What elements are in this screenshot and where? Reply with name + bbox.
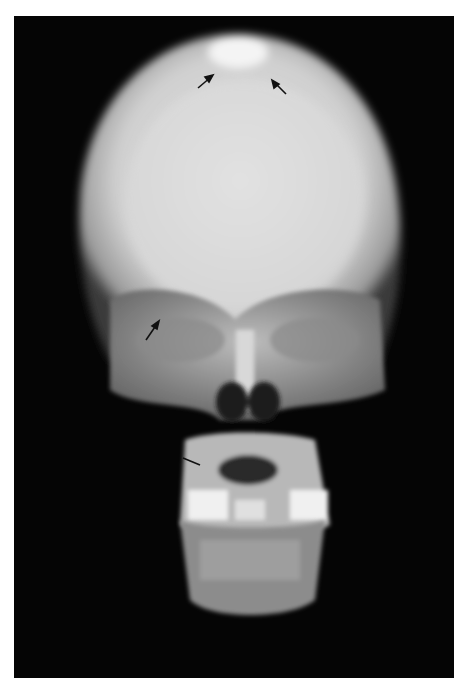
maxilla-teeth [180,433,330,537]
skull-xray [14,16,454,678]
mandible [180,520,325,615]
radiograph-film [14,16,454,678]
